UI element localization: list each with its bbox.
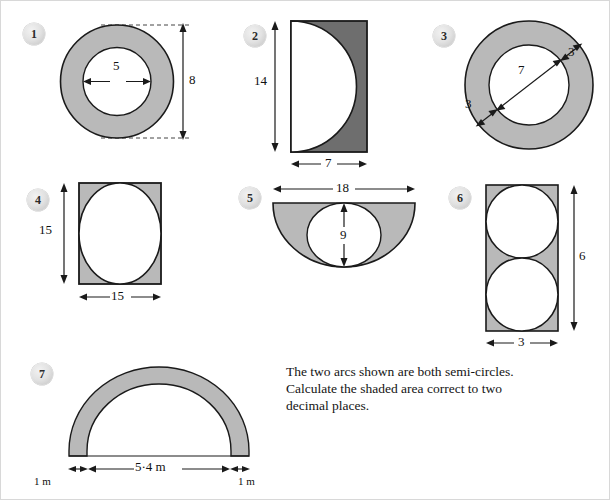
figure-7-right-thickness-label: 1 m: [238, 476, 255, 487]
arrowhead-right: [153, 294, 161, 301]
figure-1-outer-diameter-label: 8: [189, 73, 196, 86]
arrowhead-right-inner: [230, 466, 238, 472]
arrowhead-right: [359, 161, 367, 168]
arrowhead-down: [61, 275, 68, 284]
arrowhead-span-right: [222, 466, 230, 473]
figure-badge-label: 6: [457, 191, 463, 206]
figure-2: [263, 15, 423, 170]
figure-number-badge-1: 1: [23, 23, 45, 45]
figure-6-height-label: 6: [579, 249, 586, 262]
figure-5-diameter-label: 18: [336, 181, 349, 194]
arrowhead-right: [407, 186, 415, 193]
arrowhead-right: [550, 340, 558, 347]
arrowhead-left: [291, 161, 299, 168]
figure-badge-label: 5: [247, 191, 253, 206]
figure-1-drawing: [57, 15, 207, 160]
arrowhead-up: [180, 23, 187, 32]
figure-1: [57, 15, 207, 160]
arrowhead-up: [272, 21, 279, 30]
figure-3-ring-width-right-label: 3: [568, 45, 575, 58]
figure-6: [479, 179, 599, 349]
circle-top: [486, 185, 558, 258]
figure-2-drawing: [263, 15, 423, 170]
inscribed-circle: [79, 183, 161, 284]
arrowhead-left: [79, 294, 87, 301]
figure-badge-label: 2: [252, 29, 258, 44]
figure-badge-label: 3: [441, 29, 447, 44]
figure-4-height-label: 15: [39, 223, 52, 236]
figure-6-width-label: 3: [518, 335, 525, 348]
arrowhead-left: [486, 340, 494, 347]
question-text: The two arcs shown are both semi-circles…: [286, 363, 586, 414]
figure-badge-label: 1: [31, 27, 37, 42]
arrowhead-down: [272, 143, 279, 152]
figure-3-drawing: [463, 15, 603, 160]
figure-4-width-label: 15: [111, 289, 124, 302]
arrowhead-right-outer: [242, 466, 250, 472]
figure-3: [463, 15, 603, 160]
figure-1-inner-diameter-label: 5: [113, 59, 120, 72]
arrowhead-span-left: [88, 466, 96, 473]
arrowhead-left: [273, 186, 281, 193]
figure-3-inner-diameter-label: 7: [518, 63, 525, 76]
worksheet-page: 1 5 8 2: [0, 0, 610, 500]
figure-7-left-thickness-label: 1 m: [34, 476, 51, 487]
figure-badge-label: 4: [35, 193, 41, 208]
arrowhead-down: [180, 131, 187, 140]
arrowhead-left-outer: [68, 466, 76, 472]
figure-2-width-label: 7: [325, 156, 332, 169]
figure-number-badge-4: 4: [27, 189, 49, 211]
figure-number-badge-6: 6: [449, 187, 471, 209]
label-backing: [110, 73, 126, 90]
circle-bottom: [486, 258, 558, 331]
arch-band: [69, 367, 249, 456]
figure-6-drawing: [479, 179, 599, 349]
figure-number-badge-5: 5: [239, 187, 261, 209]
arrowhead-left-inner: [80, 466, 88, 472]
arrowhead-up: [571, 185, 578, 194]
figure-number-badge-3: 3: [433, 25, 455, 47]
arrowhead-up: [61, 183, 68, 192]
figure-2-height-label: 14: [254, 74, 267, 87]
figure-7-span-label: 5·4 m: [135, 460, 166, 473]
arrowhead-down: [571, 322, 578, 331]
figure-3-ring-width-left-label: 3: [465, 97, 472, 110]
figure-5-circle-diameter-label: 9: [340, 228, 347, 241]
